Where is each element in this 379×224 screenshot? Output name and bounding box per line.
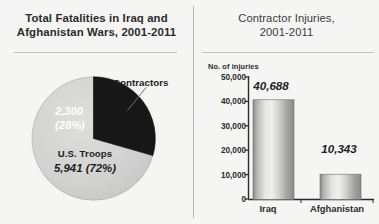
panel-fatalities: Total Fatalities in Iraq and Afghanistan… — [0, 0, 193, 224]
contractors-value: 2,300 — [55, 105, 83, 117]
x-axis-label-iraq: Iraq — [238, 203, 298, 214]
bar-chart-svg — [194, 0, 379, 224]
pie-chart-svg — [0, 0, 193, 224]
panel-injuries: Contractor Injuries, 2001-2011 No. of in… — [194, 0, 379, 224]
bar-iraq[interactable] — [253, 100, 294, 200]
figure-canvas: Total Fatalities in Iraq and Afghanistan… — [0, 0, 379, 224]
pie-callout-contractors: Contractors — [113, 77, 169, 90]
pie-chart: Contractors 2,300 (28%) U.S. Troops 5,94… — [0, 0, 193, 224]
x-axis-label-afghanistan: Afghanistan — [298, 203, 376, 214]
us-troops-name: U.S. Troops — [23, 148, 147, 161]
contractors-percent: (28%) — [55, 119, 85, 131]
bar-value-label-iraq: 40,688 — [236, 79, 306, 92]
bar-value-label-afghanistan: 10,343 — [304, 142, 374, 155]
bar-chart: No. of injuries 50,000 40,000 30,000 20,… — [194, 0, 379, 224]
bar-afghanistan[interactable] — [320, 174, 361, 199]
pie-label-contractors-value: 2,300 (28%) — [55, 104, 85, 132]
us-troops-value: 5,941 (72%) — [23, 162, 147, 175]
pie-label-us-troops: U.S. Troops 5,941 (72%) — [23, 148, 147, 174]
